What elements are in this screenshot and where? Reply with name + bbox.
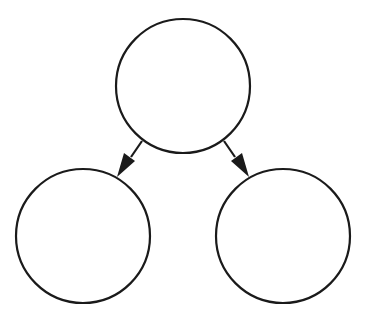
edge-line	[224, 141, 235, 157]
left-child-node	[16, 169, 150, 303]
tree-diagram	[0, 0, 370, 323]
edge-root-to-left	[117, 141, 142, 177]
right-child-node	[216, 169, 350, 303]
diagram-canvas	[0, 0, 370, 323]
root-node	[116, 19, 250, 153]
edge-root-to-right	[224, 141, 249, 177]
edge-line	[131, 141, 142, 157]
